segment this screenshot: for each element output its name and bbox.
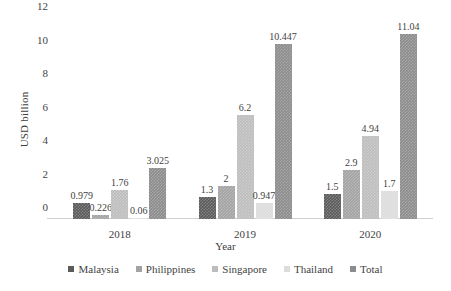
x-axis-category-2020: 2020 (324, 228, 417, 240)
bar-thailand-2018: 0.06 (130, 218, 147, 219)
bar-value-label: 0.947 (253, 190, 276, 201)
bar-philippines-2020: 2.9 (343, 170, 360, 219)
y-axis-tick-4: 4 (43, 134, 49, 146)
bar-value-label: 4.94 (362, 123, 380, 134)
x-axis-category-2019: 2019 (199, 228, 292, 240)
chart-legend: MalaysiaPhilippinesSingaporeThailandTota… (0, 263, 451, 275)
legend-item-malaysia[interactable]: Malaysia (68, 263, 118, 275)
bar-fill-texture (400, 34, 417, 219)
y-axis-tick-12: 12 (37, 0, 48, 12)
legend-label: Total (360, 263, 382, 275)
bar-total-2018: 3.025 (149, 168, 166, 219)
bar-fill-texture (275, 44, 292, 219)
bar-group-2019: 1.326.20.94710.4472019 (199, 18, 292, 219)
legend-label: Malaysia (78, 263, 118, 275)
legend-label: Singapore (222, 263, 267, 275)
bar-value-label: 1.3 (201, 184, 214, 195)
bar-fill-texture (149, 168, 166, 219)
bar-value-label: 0.06 (130, 205, 148, 216)
legend-swatch-icon (136, 266, 142, 272)
bar-group-2018: 0.9790.2261.760.063.0252018 (73, 18, 166, 219)
bar-total-2019: 10.447 (275, 44, 292, 219)
bar-fill-texture (343, 170, 360, 219)
legend-swatch-icon (350, 266, 356, 272)
legend-swatch-icon (68, 266, 74, 272)
y-axis-tick-10: 10 (37, 34, 48, 46)
x-axis-title: Year (0, 240, 451, 252)
bar-malaysia-2020: 1.5 (324, 194, 341, 219)
plot-area: 024681012 0.9790.2261.760.063.02520181.3… (57, 18, 433, 219)
bar-singapore-2019: 6.2 (237, 115, 254, 219)
bar-malaysia-2018: 0.979 (73, 203, 90, 219)
bar-value-label: 6.2 (239, 102, 252, 113)
bar-fill-texture (237, 115, 254, 219)
legend-item-total[interactable]: Total (350, 263, 382, 275)
bar-value-label: 1.5 (326, 181, 339, 192)
legend-swatch-icon (284, 266, 290, 272)
bar-fill-texture (92, 215, 109, 219)
bar-thailand-2020: 1.7 (381, 191, 398, 219)
x-axis-category-2018: 2018 (73, 228, 166, 240)
legend-item-philippines[interactable]: Philippines (136, 263, 196, 275)
bar-fill-texture (111, 190, 128, 219)
y-axis-tick-8: 8 (43, 67, 49, 79)
legend-label: Thailand (294, 263, 333, 275)
bar-value-label: 3.025 (146, 155, 169, 166)
bar-group-2020: 1.52.94.941.711.042020 (324, 18, 417, 219)
bar-fill-texture (381, 191, 398, 219)
bar-value-label: 2.9 (345, 157, 358, 168)
bar-philippines-2019: 2 (218, 186, 235, 220)
y-axis-tick-0: 0 (43, 201, 49, 213)
y-axis-tick-2: 2 (43, 168, 49, 180)
bar-value-label: 10.447 (269, 31, 297, 42)
bar-fill-texture (218, 186, 235, 220)
bar-value-label: 0.226 (89, 202, 112, 213)
bar-chart: USD billion 024681012 0.9790.2261.760.06… (0, 0, 451, 291)
y-axis-title: USD billion (16, 19, 32, 220)
bar-value-label: 1.76 (111, 177, 129, 188)
bar-fill-texture (199, 197, 216, 219)
bar-fill-texture (362, 136, 379, 219)
legend-item-singapore[interactable]: Singapore (212, 263, 267, 275)
bar-thailand-2019: 0.947 (256, 203, 273, 219)
bar-total-2020: 11.04 (400, 34, 417, 219)
bar-fill-texture (256, 203, 273, 219)
legend-label: Philippines (146, 263, 196, 275)
bar-singapore-2018: 1.76 (111, 190, 128, 219)
bar-fill-texture (130, 218, 147, 219)
bar-value-label: 2 (224, 173, 229, 184)
bar-malaysia-2019: 1.3 (199, 197, 216, 219)
bar-value-label: 0.979 (70, 190, 93, 201)
bar-value-label: 1.7 (383, 178, 396, 189)
bar-fill-texture (73, 203, 90, 219)
bar-singapore-2020: 4.94 (362, 136, 379, 219)
legend-item-thailand[interactable]: Thailand (284, 263, 333, 275)
bar-value-label: 11.04 (397, 21, 419, 32)
bar-philippines-2018: 0.226 (92, 215, 109, 219)
y-axis-tick-6: 6 (43, 101, 49, 113)
legend-swatch-icon (212, 266, 218, 272)
bar-fill-texture (324, 194, 341, 219)
